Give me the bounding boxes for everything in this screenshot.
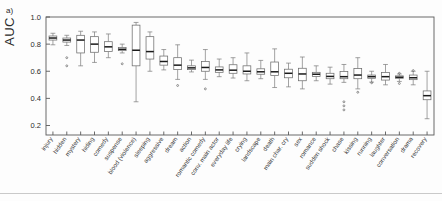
box-plot-item: [368, 71, 376, 83]
box-plot-item: [229, 58, 237, 78]
y-tick-label: 0.8: [31, 40, 41, 49]
box-plot-item: [118, 44, 126, 65]
box-series: [49, 22, 431, 118]
box-plot-item: [160, 50, 168, 70]
box-plot-item: [285, 63, 293, 87]
box-plot-item: [395, 72, 403, 84]
box-plot-item: [104, 34, 112, 58]
box-plot-item: [354, 58, 362, 94]
box-plot-item: [188, 60, 196, 72]
box-plot-item: [49, 33, 57, 45]
box-plot-item: [243, 53, 251, 81]
box-plot-item: [201, 50, 209, 90]
box-plot-item: [298, 57, 306, 89]
y-tick-label: 0.4: [31, 94, 41, 103]
y-tick-label: 1.0: [31, 13, 41, 22]
x-tick-label: mystery: [63, 135, 82, 157]
x-tick-label: sex: [292, 135, 304, 148]
box-plot-item: [215, 59, 223, 77]
footer-divider: [0, 193, 442, 194]
box-plot-item: [423, 71, 431, 118]
box-plot-item: [146, 32, 154, 71]
box-plot-item: [340, 64, 348, 82]
box-plot-item: [271, 49, 279, 88]
x-tick-label: dream: [163, 136, 179, 154]
x-axis-labels: injuryhiddenmysteryhidingcomedysuspenseb…: [40, 135, 429, 178]
box-plot-item: [174, 45, 182, 87]
box-plot-item: [409, 70, 417, 85]
outlier-point: [343, 101, 345, 103]
box-plot-item: [91, 32, 99, 63]
box-plot-item: [257, 60, 265, 78]
x-axis-ticks: [53, 132, 427, 136]
box-plot: 0.20.40.60.81.0 injuryhiddenmysteryhidin…: [0, 0, 442, 201]
box-plot-item: [63, 35, 71, 66]
box-plot-item: [326, 67, 334, 84]
y-axis-ticks: 0.20.40.60.81.0: [31, 13, 50, 131]
box-plot-item: [312, 66, 320, 81]
box-plot-item: [77, 31, 85, 66]
box-plot-item: [382, 64, 390, 84]
box-plot-item: [132, 22, 140, 101]
y-tick-label: 0.2: [31, 121, 41, 130]
outlier-point: [343, 109, 345, 111]
figure-panel: a) AUC 0.20.40.60.81.0 injuryhiddenmyste…: [0, 0, 442, 201]
outlier-point: [343, 105, 345, 107]
y-tick-label: 0.6: [31, 67, 41, 76]
